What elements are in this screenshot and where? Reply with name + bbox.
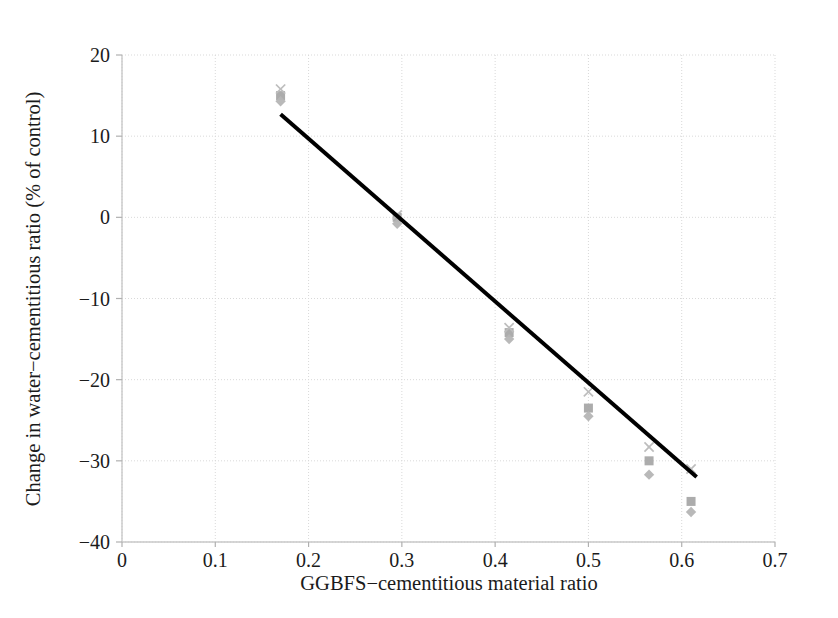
y-tick-label: −30 [79, 450, 110, 472]
chart-figure: 00.10.20.30.40.50.60.7 20100−10−20−30−40… [0, 0, 838, 618]
y-axis-title: Change in water−cementitious ratio (% of… [22, 92, 45, 507]
scatter-chart: 00.10.20.30.40.50.60.7 20100−10−20−30−40… [0, 0, 838, 618]
x-tick-label: 0.1 [203, 549, 228, 571]
y-tick-label: 20 [90, 44, 110, 66]
x-tick-label: 0.2 [296, 549, 321, 571]
y-tick-label: 0 [100, 206, 110, 228]
chart-background [0, 0, 838, 618]
y-tick-label: −40 [79, 531, 110, 553]
marker-square [687, 497, 696, 506]
x-tick-label: 0.7 [763, 549, 788, 571]
y-tick-label: −10 [79, 288, 110, 310]
x-tick-label: 0.5 [576, 549, 601, 571]
x-tick-label: 0 [117, 549, 127, 571]
x-axis-title: GGBFS−cementitious material ratio [300, 572, 597, 594]
x-tick-label: 0.3 [389, 549, 414, 571]
x-tick-label: 0.6 [669, 549, 694, 571]
marker-square [645, 456, 654, 465]
x-tick-label: 0.4 [483, 549, 508, 571]
y-tick-label: −20 [79, 369, 110, 391]
y-tick-label: 10 [90, 125, 110, 147]
